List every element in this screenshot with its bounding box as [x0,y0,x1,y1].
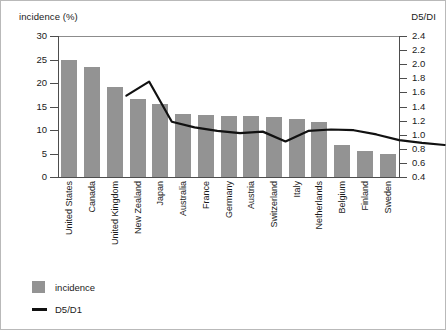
left-axis-title: incidence (%) [19,11,78,22]
right-tick-mark [399,50,407,51]
left-tick-label: 25 [21,55,47,65]
x-label-slot: Germany [217,181,240,271]
x-label-slot: Switzerland [263,181,286,271]
x-label-slot: Italy [285,181,308,271]
x-label-netherlands: Netherlands [314,181,324,230]
right-tick-mark [399,64,407,65]
x-label-new-zealand: New Zealand [133,181,143,234]
bar-slot [81,36,104,177]
x-label-slot: United States [58,181,81,271]
left-tick-label: 15 [21,102,47,112]
x-label-canada: Canada [87,181,97,213]
left-tick-mark [50,177,58,178]
x-label-united-states: United States [64,181,74,235]
x-label-slot: United Kingdom [103,181,126,271]
x-label-slot: Belgium [331,181,354,271]
x-label-australia: Australia [178,181,188,216]
x-label-sweden: Sweden [383,181,393,214]
x-label-slot: New Zealand [126,181,149,271]
left-tick-label: 0 [21,172,47,182]
x-label-slot: France [194,181,217,271]
x-label-switzerland: Switzerland [269,181,279,228]
x-label-slot: Japan [149,181,172,271]
d5-d1-line [126,82,444,145]
plot-area [58,36,399,177]
x-label-belgium: Belgium [337,181,347,214]
legend-line-icon [32,308,47,311]
x-label-italy: Italy [292,181,302,198]
right-tick-label: 2.0 [412,59,425,69]
left-tick-mark [50,83,58,84]
x-label-slot: Sweden [376,181,399,271]
right-axis-title: D5/DI [411,11,436,22]
x-label-slot: Australia [172,181,195,271]
right-tick-label: 2.2 [412,45,425,55]
x-axis-labels: United StatesCanadaUnited KingdomNew Zea… [58,181,399,271]
right-tick-mark [399,36,407,37]
bar-slot [58,36,81,177]
x-label-germany: Germany [224,181,234,218]
x-label-slot: Netherlands [308,181,331,271]
right-tick-label: 2.4 [412,31,425,41]
left-tick-mark [50,154,58,155]
left-tick-mark [50,60,58,61]
left-tick-mark [50,36,58,37]
bar-united-states [61,60,77,177]
x-label-finland: Finland [360,181,370,211]
legend-label-d5d1: D5/D1 [55,304,82,315]
left-tick-label: 30 [21,31,47,41]
left-tick-mark [50,130,58,131]
bar-canada [84,67,100,177]
left-tick-label: 5 [21,149,47,159]
legend-item-incidence: incidence [32,279,95,295]
left-tick-label: 20 [21,78,47,88]
x-label-slot: Canada [81,181,104,271]
left-tick-label: 10 [21,125,47,135]
x-label-japan: Japan [155,181,165,206]
chart-figure: incidence (%) D5/DI 051015202530 0.40.60… [0,0,446,330]
chart-legend: incidence D5/D1 [32,279,95,323]
x-label-united-kingdom: United Kingdom [110,181,120,245]
legend-square-icon [32,281,45,293]
x-label-austria: Austria [246,181,256,209]
x-label-slot: Austria [240,181,263,271]
x-label-slot: Finland [354,181,377,271]
legend-item-d5d1: D5/D1 [32,301,95,317]
left-tick-mark [50,107,58,108]
legend-label-incidence: incidence [55,282,95,293]
x-label-france: France [201,181,211,209]
